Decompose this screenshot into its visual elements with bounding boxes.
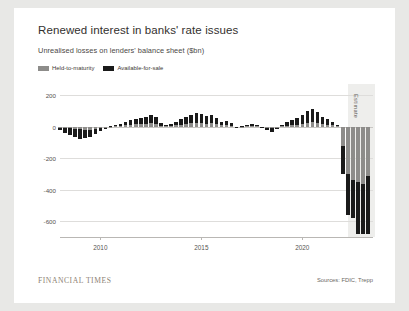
bar-held-to-maturity-2012.75 xyxy=(154,124,158,127)
bar-held-to-maturity-2017 xyxy=(240,127,244,128)
bar-held-to-maturity-2022 xyxy=(341,127,345,146)
chart-card: Renewed interest in banks' rate issues U… xyxy=(14,8,395,303)
legend-label-held-to-maturity: Held-to-maturity xyxy=(52,65,94,71)
bar-available-for-sale-2022.75 xyxy=(356,182,360,234)
bar-held-to-maturity-2015 xyxy=(200,123,204,126)
bar-available-for-sale-2016 xyxy=(220,122,224,126)
bar-available-for-sale-2021.25 xyxy=(326,119,330,124)
bar-held-to-maturity-2011.25 xyxy=(124,125,128,127)
legend-item-held-to-maturity[interactable]: Held-to-maturity xyxy=(38,65,94,71)
bar-available-for-sale-2018.75 xyxy=(275,128,279,130)
bar-available-for-sale-2011.5 xyxy=(129,120,133,125)
bar-held-to-maturity-2013.25 xyxy=(164,126,168,127)
bar-available-for-sale-2012.25 xyxy=(144,117,148,124)
bar-held-to-maturity-2020.25 xyxy=(306,123,310,127)
chart-x-axis xyxy=(60,237,373,238)
bar-available-for-sale-2017.25 xyxy=(245,125,249,127)
x-tick-label-2010: 2010 xyxy=(93,244,107,251)
bar-available-for-sale-2015.5 xyxy=(210,115,214,124)
bar-available-for-sale-2019 xyxy=(280,125,284,127)
x-tick-2020 xyxy=(302,237,303,240)
bar-available-for-sale-2016.25 xyxy=(225,121,229,125)
bar-held-to-maturity-2021 xyxy=(321,124,325,127)
bar-held-to-maturity-2023 xyxy=(361,127,365,184)
bar-available-for-sale-2015 xyxy=(200,114,204,123)
bar-available-for-sale-2013.75 xyxy=(174,122,178,125)
y-tick-label-200: 200 xyxy=(46,92,56,99)
bar-available-for-sale-2014.25 xyxy=(184,117,188,124)
bar-held-to-maturity-2019.75 xyxy=(295,125,299,127)
estimate-label: Estimate xyxy=(353,94,359,118)
bar-held-to-maturity-2013.5 xyxy=(169,126,173,127)
bar-available-for-sale-2023.25 xyxy=(366,176,370,234)
bar-available-for-sale-2012 xyxy=(139,118,143,124)
bar-available-for-sale-2010 xyxy=(99,128,103,130)
bar-available-for-sale-2009.75 xyxy=(94,129,98,134)
bar-held-to-maturity-2022.75 xyxy=(356,127,360,182)
bar-held-to-maturity-2012 xyxy=(139,124,143,127)
bar-available-for-sale-2010.25 xyxy=(104,128,108,129)
bar-available-for-sale-2013.25 xyxy=(164,125,168,126)
bar-held-to-maturity-2020 xyxy=(301,124,305,127)
bar-available-for-sale-2020.75 xyxy=(316,112,320,123)
bar-held-to-maturity-2023.25 xyxy=(366,127,370,176)
bar-available-for-sale-2018 xyxy=(260,127,264,128)
legend-label-available-for-sale: Available-for-sale xyxy=(117,65,163,71)
bar-available-for-sale-2014 xyxy=(179,119,183,124)
bar-available-for-sale-2014.5 xyxy=(189,115,193,123)
bar-held-to-maturity-2017.75 xyxy=(255,126,259,127)
bar-available-for-sale-2008.75 xyxy=(73,129,77,137)
chart-plot-area: 2000-200-400-600 Estimate xyxy=(60,86,373,237)
bar-held-to-maturity-2013.75 xyxy=(174,125,178,127)
bar-held-to-maturity-2019 xyxy=(280,126,284,127)
bar-available-for-sale-2021.5 xyxy=(331,122,335,126)
bar-available-for-sale-2015.75 xyxy=(215,118,219,124)
bar-held-to-maturity-2015.25 xyxy=(205,124,209,127)
bar-held-to-maturity-2011.5 xyxy=(129,125,133,127)
x-tick-label-2015: 2015 xyxy=(194,244,208,251)
bar-held-to-maturity-2014 xyxy=(179,125,183,127)
chart-sources: Sources: FDIC, Trepp xyxy=(317,277,373,283)
bar-held-to-maturity-2013 xyxy=(159,126,163,127)
bar-available-for-sale-2017.75 xyxy=(255,125,259,127)
bar-available-for-sale-2016.75 xyxy=(235,127,239,128)
bar-available-for-sale-2015.25 xyxy=(205,116,209,124)
y-tick-label--600: -600 xyxy=(44,218,56,225)
bar-available-for-sale-2020 xyxy=(301,115,305,124)
bar-available-for-sale-2019.75 xyxy=(295,118,299,124)
bar-held-to-maturity-2020.5 xyxy=(311,122,315,126)
bar-held-to-maturity-2022.25 xyxy=(346,127,350,174)
x-tick-2010 xyxy=(100,237,101,240)
bar-held-to-maturity-2012.5 xyxy=(149,123,153,126)
bar-available-for-sale-2021 xyxy=(321,117,325,124)
bar-held-to-maturity-2014.5 xyxy=(189,123,193,126)
bar-held-to-maturity-2014.75 xyxy=(195,123,199,127)
bar-available-for-sale-2017.5 xyxy=(250,124,254,126)
y-tick-label--400: -400 xyxy=(44,186,56,193)
bar-held-to-maturity-2021.75 xyxy=(336,126,340,127)
bar-available-for-sale-2010.5 xyxy=(109,126,113,127)
legend-item-available-for-sale[interactable]: Available-for-sale xyxy=(103,65,163,71)
bar-available-for-sale-2009 xyxy=(78,129,82,138)
bar-available-for-sale-2011.75 xyxy=(134,119,138,124)
bar-held-to-maturity-2015.5 xyxy=(210,123,214,126)
bar-available-for-sale-2008.25 xyxy=(63,128,67,133)
chart-subtitle: Unrealised losses on lenders' balance sh… xyxy=(38,46,204,55)
bar-available-for-sale-2012.5 xyxy=(149,115,153,123)
bar-held-to-maturity-2021.5 xyxy=(331,125,335,127)
bar-available-for-sale-2019.5 xyxy=(290,120,294,125)
bar-available-for-sale-2019.25 xyxy=(285,122,289,125)
bar-held-to-maturity-2022.5 xyxy=(351,127,355,180)
bar-available-for-sale-2021.75 xyxy=(336,125,340,126)
page-title: Renewed interest in banks' rate issues xyxy=(38,24,238,36)
bar-held-to-maturity-2016 xyxy=(220,125,224,127)
bar-held-to-maturity-2011 xyxy=(119,126,123,127)
legend-swatch-available-for-sale xyxy=(103,66,114,71)
bar-available-for-sale-2009.25 xyxy=(83,130,87,138)
chart-bars xyxy=(60,86,373,237)
bar-held-to-maturity-2017.25 xyxy=(245,126,249,127)
x-tick-label-2020: 2020 xyxy=(295,244,309,251)
bar-held-to-maturity-2020.75 xyxy=(316,123,320,127)
bar-held-to-maturity-2021.25 xyxy=(326,125,330,127)
bar-available-for-sale-2014.75 xyxy=(195,113,199,123)
